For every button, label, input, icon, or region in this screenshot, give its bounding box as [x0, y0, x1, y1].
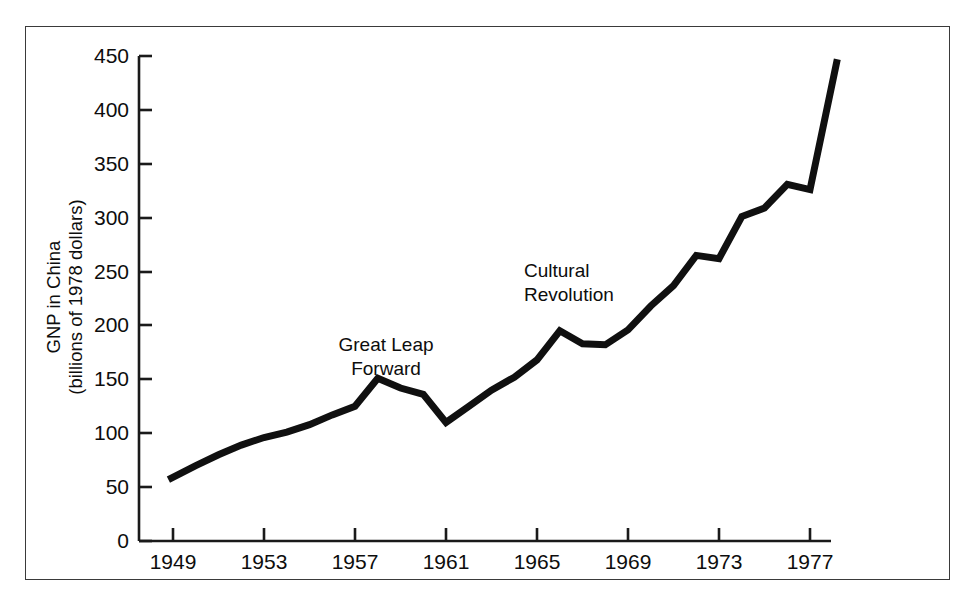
y-tick-label-200: 200	[94, 313, 129, 336]
y-tick-label-300: 300	[94, 206, 129, 229]
y-axis-ticks	[139, 56, 152, 541]
annotation-great-leap-forward: Great Leap Forward	[338, 334, 433, 379]
great-leap-forward-line2: Forward	[351, 358, 421, 379]
x-tick-label-1961: 1961	[423, 550, 470, 573]
y-axis-tick-labels: 0 50 100 150 200 250 300 350 400 450	[94, 44, 129, 552]
chart-page: 0 50 100 150 200 250 300 350 400 450	[0, 0, 977, 606]
x-axis-tick-labels: 1949 1953 1957 1961 1965 1969 1973 1977	[150, 550, 834, 573]
annotation-cultural-revolution: Cultural Revolution	[524, 260, 614, 305]
gnp-line-chart: 0 50 100 150 200 250 300 350 400 450	[26, 27, 948, 578]
x-tick-label-1949: 1949	[150, 550, 197, 573]
cultural-revolution-line1: Cultural	[524, 260, 589, 281]
x-axis-ticks	[173, 528, 810, 541]
x-tick-label-1969: 1969	[605, 550, 652, 573]
y-axis-title: GNP in China (billions of 1978 dollars)	[43, 199, 86, 394]
cultural-revolution-line2: Revolution	[524, 284, 614, 305]
y-axis-title-line1: GNP in China	[43, 240, 64, 353]
chart-frame: 0 50 100 150 200 250 300 350 400 450	[25, 26, 950, 580]
gnp-data-line	[168, 59, 837, 479]
x-tick-label-1977: 1977	[787, 550, 834, 573]
y-tick-label-250: 250	[94, 260, 129, 283]
y-tick-label-0: 0	[117, 529, 129, 552]
x-tick-label-1957: 1957	[332, 550, 379, 573]
y-tick-label-400: 400	[94, 98, 129, 121]
y-tick-label-450: 450	[94, 44, 129, 67]
y-tick-label-350: 350	[94, 152, 129, 175]
great-leap-forward-line1: Great Leap	[338, 334, 433, 355]
y-tick-label-100: 100	[94, 421, 129, 444]
x-tick-label-1973: 1973	[696, 550, 743, 573]
x-tick-label-1953: 1953	[241, 550, 288, 573]
y-tick-label-50: 50	[106, 475, 129, 498]
x-tick-label-1965: 1965	[514, 550, 561, 573]
y-axis-title-line2: (billions of 1978 dollars)	[65, 199, 86, 394]
y-tick-label-150: 150	[94, 367, 129, 390]
